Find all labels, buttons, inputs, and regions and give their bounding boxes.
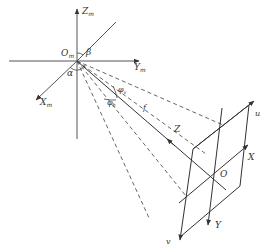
optical-axis — [77, 61, 226, 190]
fov-line-low — [77, 61, 186, 196]
v-axis — [180, 149, 193, 240]
label-ym: Ym — [134, 62, 146, 73]
label-alpha: α — [67, 68, 73, 78]
label-zm: Zm — [81, 6, 94, 17]
z-axis-arrow — [167, 139, 175, 146]
optical-axis-line — [77, 61, 226, 190]
fov-line-mid — [77, 61, 206, 154]
beta-arc — [77, 53, 83, 55]
xm-axis — [36, 61, 77, 100]
label-x: X — [247, 152, 255, 162]
label-o: O — [220, 169, 228, 179]
fov-line-bottom — [77, 61, 150, 220]
fov-dashed-lines — [77, 61, 223, 220]
label-om: Om — [61, 48, 74, 59]
label-f: f — [142, 103, 148, 112]
label-y: Y — [215, 220, 222, 230]
label-u: u — [255, 109, 260, 118]
label-beta: β — [85, 47, 91, 57]
labels: Zm Ym Xm Om α β φv φh f Z u v X Y O — [39, 6, 260, 246]
fov-line-top — [77, 61, 223, 125]
camera-geometry-diagram: Zm Ym Xm Om α β φv φh f Z u v X Y O — [0, 0, 266, 251]
label-phi-v: φv — [118, 85, 127, 95]
label-xm: Xm — [39, 97, 52, 108]
mount-frame-axes — [9, 9, 139, 139]
label-v: v — [166, 237, 171, 246]
label-phi-h: φh — [107, 98, 116, 108]
label-z: Z — [173, 124, 181, 134]
